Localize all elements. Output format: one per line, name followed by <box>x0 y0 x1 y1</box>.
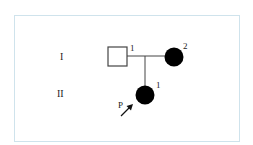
individual-ii-1-number: 1 <box>156 80 161 90</box>
individual-i-2-number: 2 <box>183 41 188 51</box>
proband-label: P <box>118 100 123 110</box>
individual-i-1-male-square[interactable] <box>108 47 127 66</box>
pedigree-diagram: I II 1 2 1 P <box>0 0 253 145</box>
generation-label-i: I <box>60 51 63 62</box>
individual-i-1-number: 1 <box>130 43 135 53</box>
generation-label-ii: II <box>57 88 64 99</box>
individual-i-2-female-affected-circle[interactable] <box>165 48 184 67</box>
individual-ii-1-female-affected-circle[interactable] <box>136 86 155 105</box>
